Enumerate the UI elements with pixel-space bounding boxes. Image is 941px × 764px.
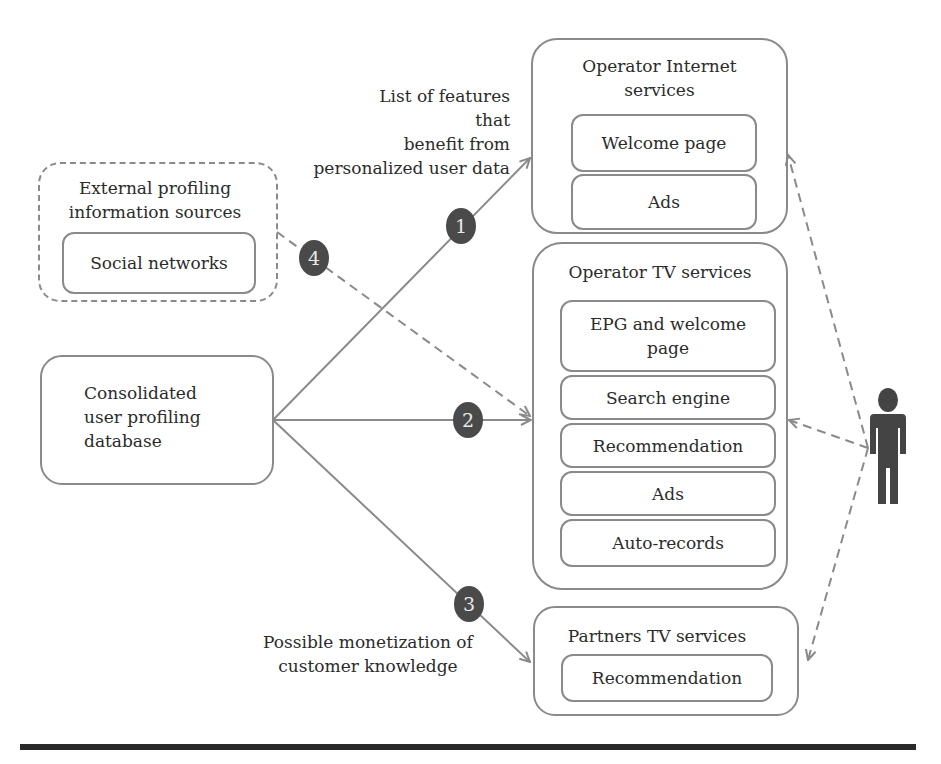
- monetization-annotation-line2: customer knowledge: [248, 654, 488, 678]
- partners-recommendation-box: Recommendation: [561, 654, 773, 702]
- tv-recommendation-box: Recommendation: [560, 423, 776, 468]
- badge-2: 2: [453, 402, 483, 438]
- features-annotation-line3: personalized user data: [300, 156, 510, 180]
- external-sources-title: External profiling information sources: [40, 176, 270, 224]
- epg-welcome-line2: page: [647, 336, 689, 360]
- bottom-rule: [20, 744, 916, 750]
- welcome-page-box: Welcome page: [571, 114, 757, 172]
- operator-internet-title-line1: Operator Internet: [533, 54, 786, 78]
- features-annotation-line1: List of features that: [340, 84, 510, 132]
- internet-ads-box: Ads: [571, 174, 757, 230]
- operator-internet-box: Operator Internet services Welcome page …: [531, 38, 788, 234]
- features-annotation: List of features that benefit from perso…: [340, 84, 510, 180]
- external-sources-box: External profiling information sources S…: [38, 162, 278, 302]
- external-sources-title-line1: External profiling: [40, 176, 270, 200]
- consolidated-db-line1: Consolidated: [84, 381, 201, 405]
- tv-recommendation-label: Recommendation: [593, 434, 743, 458]
- search-engine-label: Search engine: [606, 386, 730, 410]
- partners-tv-box: Partners TV services Recommendation: [533, 606, 799, 716]
- partners-tv-title: Partners TV services: [535, 624, 779, 648]
- consolidated-db-line2: user profiling: [84, 405, 201, 429]
- social-networks-box: Social networks: [62, 232, 256, 294]
- monetization-annotation-line1: Possible monetization of: [248, 630, 488, 654]
- edge-1-line: [273, 158, 530, 420]
- edge-user-partners-line: [808, 448, 868, 660]
- external-sources-title-line2: information sources: [40, 200, 270, 224]
- tv-ads-label: Ads: [652, 482, 684, 506]
- edge-3-line: [273, 420, 530, 662]
- tv-ads-box: Ads: [560, 471, 776, 516]
- social-networks-label: Social networks: [90, 251, 228, 275]
- edge-user-internet-line: [788, 155, 868, 448]
- operator-internet-title-line2: services: [533, 78, 786, 102]
- badge-3: 3: [454, 586, 484, 622]
- person-icon: [866, 386, 914, 514]
- welcome-page-label: Welcome page: [602, 131, 727, 155]
- badge-4: 4: [299, 240, 329, 276]
- partners-recommendation-label: Recommendation: [592, 666, 742, 690]
- epg-welcome-line1: EPG and welcome: [590, 312, 746, 336]
- monetization-annotation: Possible monetization of customer knowle…: [248, 630, 488, 678]
- edge-user-tv-line: [789, 420, 868, 448]
- operator-tv-box: Operator TV services EPG and welcome pag…: [532, 242, 788, 590]
- operator-tv-title: Operator TV services: [534, 260, 786, 284]
- badge-1: 1: [446, 208, 476, 244]
- epg-welcome-box: EPG and welcome page: [560, 300, 776, 372]
- features-annotation-line2: benefit from: [340, 132, 510, 156]
- auto-records-box: Auto-records: [560, 519, 776, 567]
- operator-internet-title: Operator Internet services: [533, 54, 786, 102]
- consolidated-db-title: Consolidated user profiling database: [84, 381, 201, 453]
- consolidated-db-line3: database: [84, 429, 201, 453]
- auto-records-label: Auto-records: [612, 531, 724, 555]
- search-engine-box: Search engine: [560, 375, 776, 420]
- consolidated-db-box: Consolidated user profiling database: [40, 355, 274, 485]
- internet-ads-label: Ads: [648, 190, 680, 214]
